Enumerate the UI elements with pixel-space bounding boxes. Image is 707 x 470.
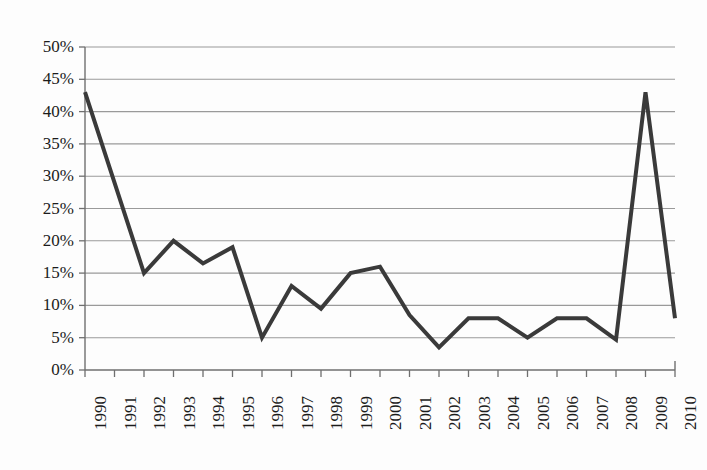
y-axis-tick-label: 20%: [8, 232, 74, 249]
x-axis-tick-label: 1992: [151, 396, 168, 430]
x-axis-tick-label: 1998: [328, 396, 345, 430]
y-axis-tick-label: 35%: [8, 135, 74, 152]
y-axis-tick-label: 30%: [8, 167, 74, 184]
x-axis-tick-label: 2003: [476, 396, 493, 430]
x-axis-tick-label: 2007: [594, 396, 611, 430]
y-axis-tick-label: 45%: [8, 70, 74, 87]
x-axis-tick-label: 1990: [92, 396, 109, 430]
y-axis-tick-label: 5%: [8, 329, 74, 346]
data-series-line: [85, 92, 675, 347]
x-axis-tick-label: 2010: [682, 396, 699, 430]
x-axis-tick-label: 2008: [623, 396, 640, 430]
y-axis-tick-label: 40%: [8, 103, 74, 120]
y-axis-tick-label: 15%: [8, 264, 74, 281]
x-axis-tick-label: 2009: [653, 396, 670, 430]
x-axis-ticks: [85, 370, 675, 377]
x-axis-tick-label: 2001: [417, 396, 434, 430]
x-axis-tick-label: 2005: [535, 396, 552, 430]
y-axis-tick-label: 10%: [8, 296, 74, 313]
y-axis-tick-label: 50%: [8, 38, 74, 55]
x-axis-tick-label: 1999: [358, 396, 375, 430]
x-axis-tick-label: 1995: [240, 396, 257, 430]
series-line: [85, 92, 675, 347]
chart-container: 0%5%10%15%20%25%30%35%40%45%50% 19901991…: [0, 0, 707, 470]
x-axis-tick-label: 2006: [564, 396, 581, 430]
x-axis-tick-label: 1994: [210, 396, 227, 430]
x-axis-tick-label: 2004: [505, 396, 522, 430]
y-axis-tick-label: 0%: [8, 361, 74, 378]
x-axis-tick-label: 1997: [299, 396, 316, 430]
x-axis-tick-label: 2000: [387, 396, 404, 430]
x-axis-tick-label: 1993: [181, 396, 198, 430]
x-axis-tick-label: 1996: [269, 396, 286, 430]
y-axis-tick-label: 25%: [8, 200, 74, 217]
gridlines: [85, 47, 675, 338]
x-axis-tick-label: 1991: [122, 396, 139, 430]
x-axis-tick-label: 2002: [446, 396, 463, 430]
